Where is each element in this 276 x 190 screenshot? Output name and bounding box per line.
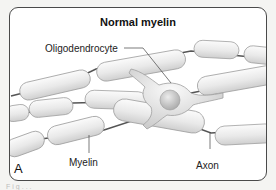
- myelin-illustration: [10, 8, 267, 181]
- figure-frame: Normal myelin Oligodendrocyte Myelin Axo…: [9, 7, 267, 181]
- label-myelin: Myelin: [69, 157, 98, 168]
- caption-fragment: Fig...: [6, 183, 34, 190]
- panel-letter: A: [14, 161, 23, 176]
- figure-title: Normal myelin: [10, 16, 266, 28]
- label-axon: Axon: [196, 160, 219, 171]
- label-oligodendrocyte: Oligodendrocyte: [45, 43, 118, 54]
- nucleus: [160, 90, 180, 110]
